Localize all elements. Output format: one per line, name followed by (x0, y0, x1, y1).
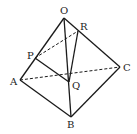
edge-RQ (69, 31, 78, 82)
edge-AB (20, 80, 71, 117)
edge-PR (35, 31, 78, 58)
edge-BC (71, 67, 120, 117)
edge-PQ (35, 58, 69, 82)
label-A: A (9, 76, 18, 87)
edge-OB (64, 18, 71, 117)
edge-OA (20, 18, 64, 80)
label-B: B (67, 119, 74, 130)
label-O: O (60, 5, 68, 16)
label-P: P (27, 50, 34, 61)
edges (20, 18, 120, 117)
label-R: R (80, 21, 88, 32)
label-C: C (123, 62, 131, 73)
tetrahedron-diagram: O R P A Q C B (0, 0, 137, 134)
label-Q: Q (72, 80, 80, 91)
